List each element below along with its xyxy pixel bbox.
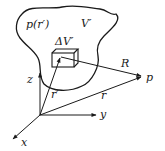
diagram-canvas: p(r′) V′ ΔV′ R p r′ r z y x bbox=[0, 0, 165, 151]
field-position-label: r bbox=[101, 89, 107, 102]
field-point-label: p bbox=[146, 71, 153, 84]
y-axis-label: y bbox=[99, 108, 107, 121]
z-axis-label: z bbox=[26, 73, 33, 86]
x-axis-label: x bbox=[21, 136, 28, 149]
source-position-vector bbox=[40, 58, 60, 115]
volume-label: V′ bbox=[81, 17, 92, 30]
charge-density-label: p(r′) bbox=[26, 18, 49, 31]
source-position-label: r′ bbox=[51, 88, 59, 101]
separation-label: R bbox=[120, 57, 129, 70]
volume-element-label: ΔV′ bbox=[54, 35, 74, 48]
